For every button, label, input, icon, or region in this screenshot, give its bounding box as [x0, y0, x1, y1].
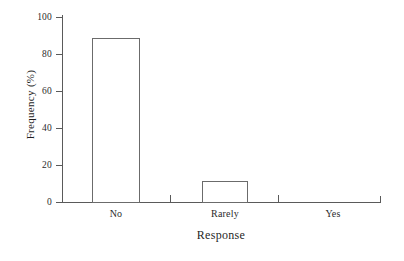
x-tick-mark-end	[380, 196, 381, 202]
bar-no	[92, 38, 140, 203]
y-axis-line	[62, 15, 63, 203]
bar-chart-figure: 100 80 60 40 20 0 No Rarely Yes Response…	[0, 0, 404, 261]
x-tick-label-yes: Yes	[298, 208, 368, 220]
y-tick-mark-40	[56, 128, 62, 129]
y-axis-title: Frequency (%)	[24, 35, 37, 175]
y-tick-mark-80	[56, 54, 62, 55]
x-tick-mark-1	[62, 195, 63, 202]
y-tick-mark-60	[56, 91, 62, 92]
x-tick-mark-7	[278, 195, 279, 202]
x-tick-label-rarely: Rarely	[190, 208, 260, 220]
y-tick-mark-100	[56, 17, 62, 18]
x-tick-mark-4	[170, 195, 171, 202]
y-tick-label-0: 0	[22, 197, 52, 207]
y-tick-mark-0	[56, 202, 62, 203]
bar-rarely	[202, 181, 248, 203]
y-tick-label-100: 100	[22, 12, 52, 22]
y-tick-mark-20	[56, 165, 62, 166]
x-tick-label-no: No	[81, 208, 151, 220]
x-axis-title: Response	[62, 228, 380, 243]
